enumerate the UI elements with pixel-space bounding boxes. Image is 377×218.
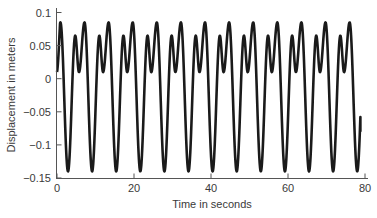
x-tick-label: 40	[205, 182, 217, 194]
x-axis-title: Time in seconds	[172, 198, 252, 210]
x-ticks: 020406080	[54, 174, 371, 195]
y-tick-label: −0.1	[29, 139, 51, 151]
displacement-chart: 0.10.050−0.05−0.1−0.15 020406080 Time in…	[0, 0, 377, 218]
x-tick-label: 20	[128, 182, 140, 194]
y-tick-label: 0.1	[36, 7, 51, 19]
x-tick-label: 0	[54, 182, 60, 194]
x-tick-label: 60	[282, 182, 294, 194]
x-tick-label: 80	[359, 182, 371, 194]
y-ticks: 0.10.050−0.05−0.1−0.15	[23, 7, 61, 185]
plot-area	[57, 22, 360, 171]
y-tick-label: −0.15	[23, 172, 51, 184]
y-tick-label: 0	[45, 73, 51, 85]
y-axis-title: Displacement in meters	[5, 37, 17, 152]
y-tick-label: −0.05	[23, 106, 51, 118]
displacement-line	[57, 22, 360, 171]
y-tick-label: 0.05	[30, 40, 51, 52]
